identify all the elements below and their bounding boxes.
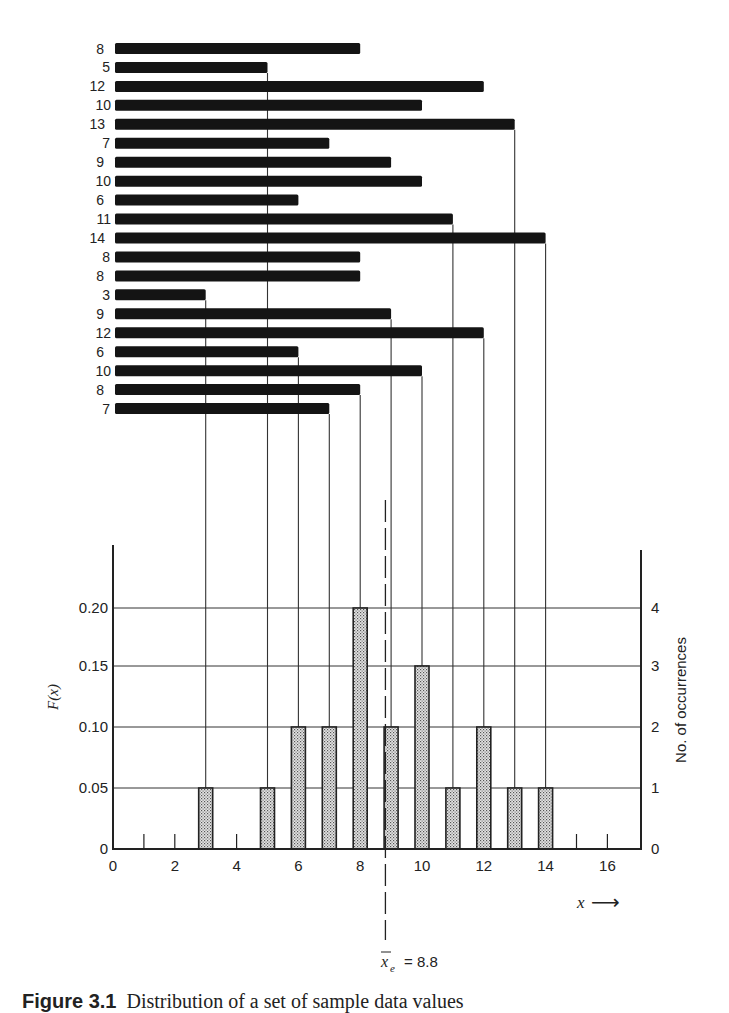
tick-labels: 024681012141600.050.100.150.2001234 bbox=[79, 599, 660, 874]
figure-caption: Figure 3.1Distribution of a set of sampl… bbox=[22, 990, 464, 1013]
mean-label-value: = 8.8 bbox=[404, 953, 438, 970]
sample-bar bbox=[115, 176, 422, 187]
sample-value-label: 12 bbox=[95, 325, 111, 341]
sample-bar bbox=[115, 308, 391, 319]
sample-value-label: 13 bbox=[89, 116, 105, 132]
sample-value-label: 7 bbox=[102, 401, 110, 417]
y-axis-label-right: No. of occurrences bbox=[672, 637, 689, 763]
sample-bar bbox=[115, 270, 360, 281]
axes bbox=[113, 545, 641, 850]
x-tick-label: 10 bbox=[414, 857, 431, 874]
histogram-bar bbox=[322, 727, 336, 849]
x-tick-label: 8 bbox=[356, 857, 364, 874]
sample-value-label: 11 bbox=[96, 211, 111, 227]
histogram-bar bbox=[353, 608, 367, 849]
sample-value-label: 9 bbox=[96, 154, 104, 170]
sample-bar bbox=[115, 81, 484, 92]
figure-caption-text: Distribution of a set of sample data val… bbox=[126, 990, 463, 1012]
sample-value-label: 12 bbox=[89, 78, 105, 94]
sample-bar bbox=[115, 119, 515, 130]
y-tick-label-right: 1 bbox=[651, 779, 659, 796]
sample-value-label: 6 bbox=[96, 344, 104, 360]
sample-value-label: 5 bbox=[102, 59, 110, 75]
x-tick-label: 12 bbox=[475, 857, 492, 874]
y-tick-label-right: 4 bbox=[651, 599, 659, 616]
y-tick-label-left: 0.10 bbox=[79, 718, 108, 735]
sample-bar bbox=[115, 251, 360, 262]
figure-number: Figure 3.1 bbox=[22, 990, 116, 1012]
mean-label: x e = 8.8 bbox=[380, 952, 438, 974]
sample-bar bbox=[115, 365, 422, 376]
sample-value-label: 8 bbox=[96, 41, 104, 57]
x-tick-label: 14 bbox=[537, 857, 554, 874]
sample-bar bbox=[115, 327, 484, 338]
x-tick-label: 16 bbox=[599, 857, 616, 874]
sample-bar bbox=[115, 62, 268, 73]
sample-value-label: 7 bbox=[102, 135, 110, 151]
sample-value-label: 8 bbox=[96, 382, 104, 398]
x-tick-label: 4 bbox=[232, 857, 240, 874]
sample-bar bbox=[115, 100, 422, 111]
y-tick-label-left: 0.05 bbox=[79, 779, 108, 796]
sample-bars bbox=[115, 43, 546, 414]
y-tick-label-left: 0 bbox=[100, 840, 108, 857]
sample-value-label: 8 bbox=[102, 249, 110, 265]
sample-bar bbox=[115, 138, 329, 149]
sample-bar bbox=[115, 403, 329, 414]
sample-bar bbox=[115, 384, 360, 395]
sample-bar bbox=[115, 157, 391, 168]
histogram-bar bbox=[508, 788, 522, 849]
histogram-bar bbox=[199, 788, 213, 849]
sample-bar bbox=[115, 43, 360, 54]
sample-value-label: 8 bbox=[96, 268, 104, 284]
x-axis-arrow-icon: ⟶ bbox=[591, 890, 620, 914]
y-tick-label-right: 0 bbox=[651, 840, 659, 857]
x-axis-label: x bbox=[576, 893, 585, 912]
sample-value-label: 3 bbox=[102, 287, 110, 303]
sample-value-label: 6 bbox=[96, 192, 104, 208]
mean-label-sub: e bbox=[390, 962, 395, 974]
sample-bar bbox=[115, 214, 453, 225]
histogram-bar bbox=[291, 727, 305, 849]
drop-lines bbox=[206, 73, 546, 849]
y-tick-label-right: 3 bbox=[651, 657, 659, 674]
histogram-bar bbox=[415, 666, 429, 849]
histogram-bar bbox=[384, 727, 398, 849]
histogram-bar bbox=[446, 788, 460, 849]
histogram-bar bbox=[477, 727, 491, 849]
sample-value-label: 14 bbox=[89, 230, 105, 246]
y-tick-label-right: 2 bbox=[651, 718, 659, 735]
x-tick-label: 2 bbox=[171, 857, 179, 874]
y-axis-label-left: F(x) bbox=[45, 684, 62, 711]
sample-value-label: 9 bbox=[96, 306, 104, 322]
x-tick-label: 6 bbox=[294, 857, 302, 874]
sample-bar bbox=[115, 195, 298, 206]
y-tick-label-left: 0.20 bbox=[79, 599, 108, 616]
sample-bar bbox=[115, 346, 298, 357]
sample-value-label: 10 bbox=[95, 97, 111, 113]
histogram-bar bbox=[539, 788, 553, 849]
sample-value-label: 10 bbox=[95, 363, 111, 379]
histogram-bar bbox=[261, 788, 275, 849]
x-tick-label: 0 bbox=[109, 857, 117, 874]
sample-value-labels: 8512101379106111488391261087 bbox=[89, 41, 111, 417]
sample-bar bbox=[115, 289, 206, 300]
y-tick-label-left: 0.15 bbox=[79, 657, 108, 674]
sample-value-label: 10 bbox=[95, 173, 111, 189]
mean-label-var: x bbox=[380, 953, 388, 970]
sample-bar bbox=[115, 233, 546, 244]
histogram-bars bbox=[199, 608, 553, 849]
grid-lines bbox=[113, 608, 641, 788]
